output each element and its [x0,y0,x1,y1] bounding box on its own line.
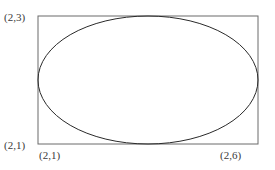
label-bottom-right: (2,6) [220,150,241,161]
label-bottom-left-x: (2,1) [39,150,60,161]
bounding-rectangle [38,16,258,144]
inscribed-ellipse [38,16,258,144]
figure-svg [0,0,275,170]
label-top-left: (2,3) [4,12,25,23]
diagram-canvas: (2,3) (2,1) (2,1) (2,6) [0,0,275,170]
label-bottom-left: (2,1) [4,140,25,151]
